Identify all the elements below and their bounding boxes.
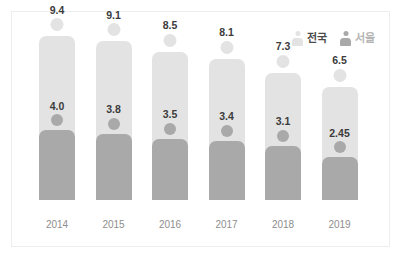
- chart-card: 전국 서울 9.44.020149.13.820158.53.520168.13…: [11, 11, 390, 247]
- person-head-shape: [277, 130, 289, 142]
- person-head-shape: [51, 114, 63, 126]
- x-axis-label: 2019: [316, 220, 364, 230]
- value-label-seoul: 3.5: [146, 109, 194, 120]
- bar-column: 7.33.1: [259, 36, 307, 200]
- person-head-shape: [51, 18, 64, 31]
- bar-column: 6.52.45: [316, 36, 364, 200]
- value-label-nationwide: 7.3: [259, 41, 307, 52]
- bar-group: 9.44.02014: [33, 12, 81, 246]
- person-head-shape: [107, 23, 120, 36]
- person-head-shape: [333, 69, 346, 82]
- person-head-shape: [277, 55, 290, 68]
- bar-column: 9.13.8: [90, 36, 138, 200]
- x-axis-label: 2015: [90, 220, 138, 230]
- value-label-seoul: 3.4: [203, 111, 251, 122]
- person-head-shape: [108, 118, 120, 130]
- value-label-nationwide: 8.1: [203, 27, 251, 38]
- value-label-seoul: 3.8: [90, 104, 138, 115]
- bar-group: 6.52.452019: [316, 12, 364, 246]
- person-head-shape: [334, 141, 346, 153]
- value-label-nationwide: 6.5: [316, 55, 364, 66]
- bar-group: 9.13.82015: [90, 12, 138, 246]
- bar-segment-seoul: [322, 157, 358, 200]
- value-label-nationwide: 9.4: [33, 5, 81, 16]
- value-label-nationwide: 9.1: [90, 10, 138, 21]
- bar-group: 8.13.42017: [203, 12, 251, 246]
- bar-segment-seoul: [39, 130, 75, 200]
- person-head-shape: [164, 123, 176, 135]
- x-axis-label: 2014: [33, 220, 81, 230]
- person-head-shape: [164, 34, 177, 47]
- bar-column: 8.13.4: [203, 36, 251, 200]
- bar-segment-seoul: [209, 141, 245, 200]
- person-head-shape: [220, 41, 233, 54]
- bar-segment-seoul: [265, 146, 301, 200]
- value-label-nationwide: 8.5: [146, 20, 194, 31]
- person-head-shape: [221, 125, 233, 137]
- value-label-seoul: 2.45: [316, 128, 364, 139]
- chart-plot-area: 9.44.020149.13.820158.53.520168.13.42017…: [12, 12, 389, 246]
- bar-column: 9.44.0: [33, 36, 81, 200]
- bar-segment-seoul: [96, 134, 132, 200]
- x-axis-label: 2017: [203, 220, 251, 230]
- bar-group: 8.53.52016: [146, 12, 194, 246]
- value-label-seoul: 3.1: [259, 116, 307, 127]
- x-axis-label: 2016: [146, 220, 194, 230]
- bar-column: 8.53.5: [146, 36, 194, 200]
- bar-group: 7.33.12018: [259, 12, 307, 246]
- x-axis-label: 2018: [259, 220, 307, 230]
- value-label-seoul: 4.0: [33, 101, 81, 112]
- bar-segment-seoul: [152, 139, 188, 200]
